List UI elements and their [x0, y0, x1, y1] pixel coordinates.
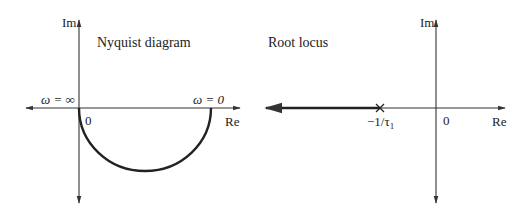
nyquist-re-label: Re — [225, 114, 240, 129]
pole-label: −1/τ1 — [367, 114, 394, 131]
root-locus-im-label: Im — [420, 15, 434, 30]
diagram-canvas: Im Nyquist diagram ω = ∞ ω = 0 0 Re Im R… — [0, 0, 530, 216]
nyquist-title: Nyquist diagram — [97, 35, 191, 50]
root-locus-diagram: Im Root locus −1/τ1 0 Re — [266, 15, 507, 203]
nyquist-im-label: Im — [62, 15, 76, 30]
nyquist-semicircle-curve — [79, 108, 211, 171]
root-locus-re-label: Re — [492, 114, 507, 129]
root-locus-origin-label: 0 — [443, 113, 450, 128]
omega-zero-label: ω = 0 — [193, 92, 224, 107]
root-locus-title: Root locus — [268, 35, 328, 50]
nyquist-diagram: Im Nyquist diagram ω = ∞ ω = 0 0 Re — [26, 15, 240, 203]
omega-infinity-label: ω = ∞ — [41, 92, 75, 107]
nyquist-origin-label: 0 — [85, 113, 92, 128]
